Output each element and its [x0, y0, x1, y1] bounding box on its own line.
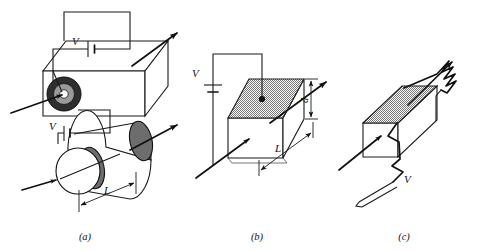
- physics-figure-svg: V V L (a): [0, 0, 479, 251]
- caption-panel-a: (a): [79, 231, 92, 243]
- caption-panel-b: (b): [251, 231, 264, 243]
- label-length-a: L: [103, 184, 110, 196]
- caption-panel-c: (c): [398, 231, 410, 243]
- panel-a-block: [43, 41, 168, 116]
- label-length-b: L: [274, 142, 281, 154]
- label-thickness-b: d: [299, 97, 310, 103]
- figure-container: V V L (a): [0, 0, 479, 251]
